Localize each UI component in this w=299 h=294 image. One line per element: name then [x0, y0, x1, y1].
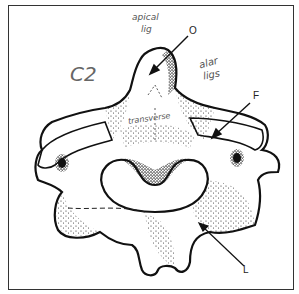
apical-sub-note: lig	[141, 25, 152, 34]
label-L: L	[243, 264, 249, 275]
c2-vertebra-drawing	[0, 0, 299, 294]
label-F: F	[253, 90, 259, 101]
label-O: O	[189, 25, 197, 36]
apical-note: apical	[132, 13, 159, 22]
c2-note: C2	[70, 64, 97, 84]
